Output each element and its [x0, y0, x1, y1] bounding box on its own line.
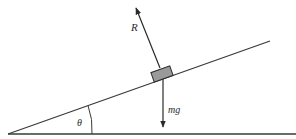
inclined-plane-diagram: R mg θ: [0, 0, 296, 139]
normal-force-label: R: [130, 21, 138, 33]
weight-label: mg: [168, 104, 180, 115]
angle-label: θ: [77, 117, 82, 128]
incline-line: [8, 41, 270, 134]
normal-force-arrow: [136, 8, 160, 68]
angle-arc: [88, 106, 92, 135]
block: [151, 66, 173, 82]
